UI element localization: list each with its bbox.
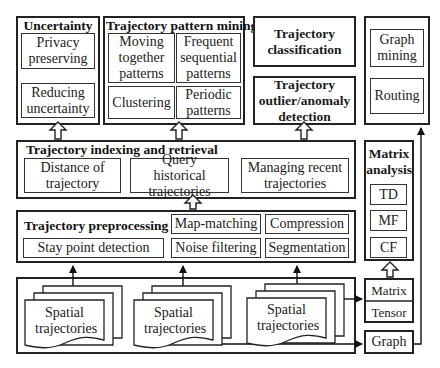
matrix-label: Matrix [364, 283, 414, 299]
spatial-trajectories-doc-3: Spatial trajectories [247, 302, 326, 334]
privacy-preserving-box: Privacy preserving [21, 33, 95, 69]
matrix-analysis-title: Matrix analysis [364, 146, 414, 178]
preprocessing-title: Trajectory preprocessing [24, 218, 168, 233]
distance-of-trajectory-box: Distance of trajectory [24, 158, 121, 193]
reducing-uncertainty-box: Reducing uncertainty [21, 83, 95, 118]
td-box: TD [370, 184, 407, 205]
compression-box: Compression [265, 214, 349, 234]
mf-box: MF [370, 210, 407, 231]
segmentation-box: Segmentation [265, 238, 349, 258]
query-historical-box: Query historical trajectories [130, 158, 229, 193]
cf-box: CF [370, 237, 407, 258]
outlier-detection-title: Trajectory outlier/anomaly detection [253, 76, 356, 125]
managing-recent-box: Managing recent trajectories [241, 158, 349, 193]
periodic-patterns-box: Periodic patterns [176, 86, 241, 119]
pattern-mining-title: Trajectory pattern mining [106, 18, 257, 33]
map-matching-box: Map-matching [171, 214, 261, 234]
classification-title: Trajectory classification [253, 16, 356, 67]
clustering-box: Clustering [108, 86, 175, 119]
stay-point-detection-box: Stay point detection [23, 238, 164, 258]
spatial-trajectories-doc-2: Spatial trajectories [134, 305, 213, 337]
uncertainty-title: Uncertainty [16, 18, 100, 33]
routing-box: Routing [370, 78, 424, 114]
tensor-label: Tensor [364, 305, 414, 321]
frequent-sequential-box: Frequent sequential patterns [176, 33, 241, 83]
moving-together-box: Moving together patterns [108, 33, 175, 83]
noise-filtering-box: Noise filtering [171, 238, 261, 258]
graph-mining-box: Graph mining [370, 29, 424, 67]
spatial-trajectories-doc-1: Spatial trajectories [25, 305, 104, 337]
graph-label: Graph [364, 334, 414, 350]
